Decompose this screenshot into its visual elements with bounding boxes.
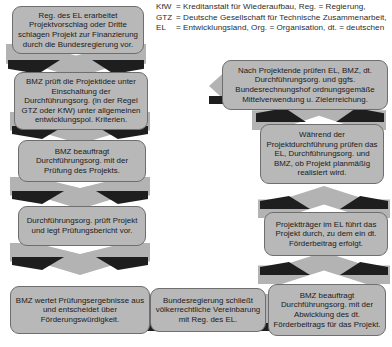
legend-row: KfW = Kreditanstalt für Wiederaufbau, Re… — [156, 2, 392, 13]
node-text: BMZ beauftragt Durchführungsorg. mit der… — [273, 291, 381, 329]
node-bmz-review-idea[interactable]: BMZ prüft die Projektidee unter Einschal… — [14, 72, 148, 130]
legend-row: GTZ = Deutsche Gesellschaft für Technisc… — [156, 13, 392, 24]
node-text: BMZ wertet Prüfungsergebnisse aus und en… — [15, 296, 145, 325]
node-monitoring-during-execution[interactable]: Während der Projektdurchführung prüfen d… — [260, 124, 384, 184]
legend-row: EL = Entwicklungsland, Org. = Organisati… — [156, 23, 392, 34]
node-project-proposal[interactable]: Reg. des EL erarbeitet Projektvorschlag … — [12, 6, 144, 54]
node-text: Durchführungsorg. prüft Projekt und legt… — [23, 216, 141, 235]
node-project-execution[interactable]: Projektträger im EL führt das Projekt du… — [264, 212, 388, 256]
node-final-evaluation[interactable]: Nach Projektende prüfen EL, BMZ, dt. Dur… — [222, 60, 388, 110]
node-text: Bundesregierung schließt völkerrechtlich… — [155, 296, 261, 325]
legend: KfW = Kreditanstalt für Wiederaufbau, Re… — [156, 2, 392, 34]
node-bmz-commission-appraisal[interactable]: BMZ beauftragt Durchführungsorg. mit der… — [18, 140, 146, 182]
node-bmz-commission-implementation[interactable]: BMZ beauftragt Durchführungsorg. mit der… — [268, 284, 386, 336]
legend-key: GTZ — [156, 13, 176, 24]
legend-equals: = — [176, 23, 183, 34]
legend-key: KfW — [156, 2, 176, 13]
legend-value: Kreditanstalt für Wiederaufbau, Reg. = R… — [183, 2, 392, 13]
node-bmz-evaluates-results[interactable]: BMZ wertet Prüfungsergebnisse aus und en… — [10, 286, 150, 334]
node-government-agreement[interactable]: Bundesregierung schließt völkerrechtlich… — [150, 288, 266, 332]
node-text: Reg. des EL erarbeitet Projektvorschlag … — [17, 11, 139, 49]
legend-value: Entwicklungsland, Org. = Organisation, d… — [183, 23, 392, 34]
node-text: Während der Projektdurchführung prüfen d… — [265, 130, 379, 178]
node-text: Projektträger im EL führt das Projekt du… — [269, 220, 383, 249]
legend-equals: = — [176, 13, 183, 24]
node-text: BMZ prüft die Projektidee unter Einschal… — [19, 77, 143, 125]
legend-value: Deutsche Gesellschaft für Technische Zus… — [183, 13, 392, 24]
node-appraisal-report[interactable]: Durchführungsorg. prüft Projekt und legt… — [18, 206, 146, 246]
legend-key: EL — [156, 23, 176, 34]
flowchart-diagram: KfW = Kreditanstalt für Wiederaufbau, Re… — [0, 0, 392, 347]
node-text: BMZ beauftragt Durchführungsorg. mit der… — [23, 147, 141, 176]
node-text: Nach Projektende prüfen EL, BMZ, dt. Dur… — [227, 66, 383, 104]
legend-equals: = — [176, 2, 183, 13]
